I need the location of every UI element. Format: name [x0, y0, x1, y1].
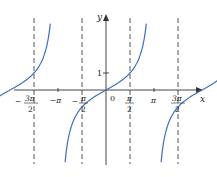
x-tick-labels: −3π 2 −π −π 2 π 2 π 3π 2: [15, 94, 185, 114]
svg-text:−π: −π: [50, 96, 62, 105]
tan-curve: [0, 24, 217, 163]
svg-text:−: −: [15, 97, 21, 106]
svg-text:π: π: [80, 94, 87, 103]
origin-label: 0: [110, 94, 115, 103]
svg-text:2: 2: [28, 105, 33, 114]
svg-text:2: 2: [127, 105, 132, 114]
svg-text:3π: 3π: [25, 94, 36, 103]
plot-svg: y x 1 0 −3π 2 −π −π 2 π 2 π 3π 2: [0, 0, 217, 177]
svg-text:−: −: [72, 97, 78, 106]
svg-text:π: π: [126, 94, 133, 103]
y-tick-label-1: 1: [97, 69, 102, 78]
svg-text:2: 2: [175, 105, 180, 114]
svg-text:3π: 3π: [172, 94, 183, 103]
tangent-graph: y x 1 0 −3π 2 −π −π 2 π 2 π 3π 2: [0, 0, 217, 177]
svg-text:2: 2: [81, 105, 86, 114]
svg-text:π: π: [150, 96, 157, 105]
y-axis-arrow-icon: [103, 14, 109, 21]
x-axis-label: x: [200, 94, 205, 104]
y-axis-label: y: [96, 12, 103, 22]
